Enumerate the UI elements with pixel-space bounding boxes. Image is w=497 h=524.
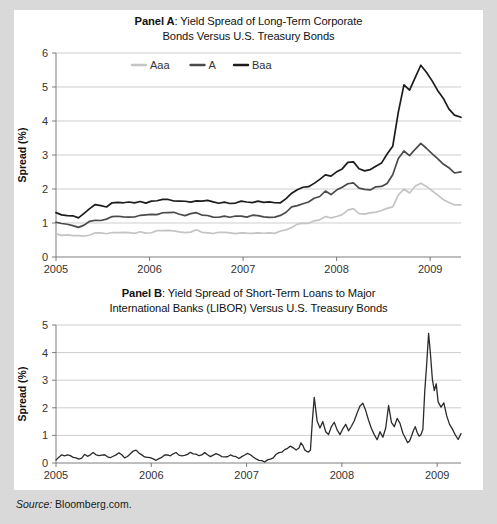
xtick-label-2007: 2007 bbox=[234, 469, 258, 481]
panel-b: Panel B: Yield Spread of Short-Term Loan… bbox=[14, 286, 483, 490]
legend-label-aaa: Aaa bbox=[150, 59, 170, 71]
panel-a-title: Panel A: Yield Spread of Long-Term Corpo… bbox=[14, 14, 483, 43]
xtick-label-2009: 2009 bbox=[418, 263, 442, 275]
y-axis-label: Spread (%) bbox=[16, 367, 28, 422]
xtick-label-2009: 2009 bbox=[425, 469, 449, 481]
series-aaa bbox=[56, 183, 461, 236]
xtick-label-2006: 2006 bbox=[137, 263, 161, 275]
source-label: Source: bbox=[16, 498, 52, 510]
ytick-label-4: 4 bbox=[42, 347, 48, 359]
xtick-label-2005: 2005 bbox=[44, 469, 68, 481]
ytick-label-5: 5 bbox=[42, 319, 48, 331]
xtick-label-2006: 2006 bbox=[139, 469, 163, 481]
ytick-label-1: 1 bbox=[42, 217, 48, 229]
legend-label-baa: Baa bbox=[252, 59, 272, 71]
xtick-label-2008: 2008 bbox=[330, 469, 354, 481]
panel-b-tag: Panel B bbox=[122, 287, 162, 299]
series-baa bbox=[56, 65, 461, 218]
source-strip: Source: Bloomberg.com. bbox=[0, 490, 497, 524]
panel-a-svg: 012345620052006200720082009Spread (%)Aaa… bbox=[14, 43, 483, 281]
source-value: Bloomberg.com. bbox=[52, 498, 131, 510]
ytick-label-1: 1 bbox=[42, 429, 48, 441]
ytick-label-2: 2 bbox=[42, 183, 48, 195]
ytick-label-4: 4 bbox=[42, 115, 48, 127]
ytick-label-0: 0 bbox=[42, 251, 48, 263]
panel-a: Panel A: Yield Spread of Long-Term Corpo… bbox=[14, 14, 483, 286]
legend-label-a: A bbox=[209, 59, 217, 71]
ytick-label-2: 2 bbox=[42, 402, 48, 414]
panel-a-title-rest: : Yield Spread of Long-Term Corporate bbox=[175, 15, 363, 27]
xtick-label-2008: 2008 bbox=[324, 263, 348, 275]
panel-b-title-rest: : Yield Spread of Short-Term Loans to Ma… bbox=[162, 287, 375, 299]
panel-b-plot: 01234520052006200720082009Spread (%) bbox=[14, 315, 483, 487]
panel-b-title: Panel B: Yield Spread of Short-Term Loan… bbox=[14, 286, 483, 315]
figure-root: Panel A: Yield Spread of Long-Term Corpo… bbox=[0, 0, 497, 524]
ytick-label-3: 3 bbox=[42, 374, 48, 386]
panel-a-title-line2: Bonds Versus U.S. Treasury Bonds bbox=[162, 30, 334, 42]
figure-card: Panel A: Yield Spread of Long-Term Corpo… bbox=[14, 10, 483, 490]
series-a bbox=[56, 143, 461, 227]
ytick-label-3: 3 bbox=[42, 149, 48, 161]
ytick-label-6: 6 bbox=[42, 47, 48, 59]
y-axis-label: Spread (%) bbox=[16, 128, 28, 183]
source-note: Source: Bloomberg.com. bbox=[16, 498, 132, 510]
xtick-label-2007: 2007 bbox=[231, 263, 255, 275]
xtick-label-2005: 2005 bbox=[44, 263, 68, 275]
panel-b-svg: 01234520052006200720082009Spread (%) bbox=[14, 315, 483, 487]
panel-b-title-line2: International Banks (LIBOR) Versus U.S. … bbox=[109, 302, 387, 314]
panel-a-tag: Panel A bbox=[135, 15, 175, 27]
ytick-label-0: 0 bbox=[42, 457, 48, 469]
ytick-label-5: 5 bbox=[42, 81, 48, 93]
panel-a-plot: 012345620052006200720082009Spread (%)Aaa… bbox=[14, 43, 483, 281]
